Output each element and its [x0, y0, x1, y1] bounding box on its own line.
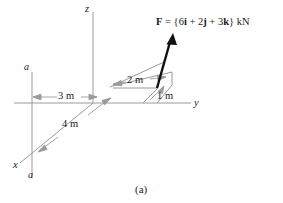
force-equals: = — [162, 16, 173, 27]
force-plus-2: + — [207, 16, 218, 27]
x-axis-label: x — [13, 160, 18, 171]
force-vector-arrow — [157, 33, 177, 88]
dimension-3m-label: 3 m — [58, 91, 74, 102]
dimension-4m-label: 4 m — [62, 119, 78, 130]
dimension-1m-label: 1 m — [157, 91, 173, 102]
dimension-2m-label: 2 m — [127, 75, 143, 86]
force-plus-1: + — [187, 16, 198, 27]
y-axis-label: y — [194, 98, 199, 109]
section-label-a-top: a — [24, 62, 29, 72]
section-label-a-bottom: a — [28, 170, 33, 180]
figure-container: z y x a a 3 m 2 m 1 m 4 m F = {6i + 2j +… — [0, 0, 283, 203]
projection-connector-a — [143, 88, 158, 103]
dimension-4m-arrow-upper — [102, 98, 111, 105]
diagram-lines — [0, 0, 283, 203]
z-axis-label: z — [85, 4, 89, 15]
dimension-2m-arrow-left — [113, 81, 122, 86]
force-units: kN — [234, 16, 249, 27]
force-equation-label: F = {6i + 2j + 3k} kN — [156, 17, 250, 28]
x-axis-line — [20, 103, 93, 163]
dimension-3m-arrow-left — [33, 94, 41, 100]
figure-caption: (a) — [135, 184, 147, 195]
